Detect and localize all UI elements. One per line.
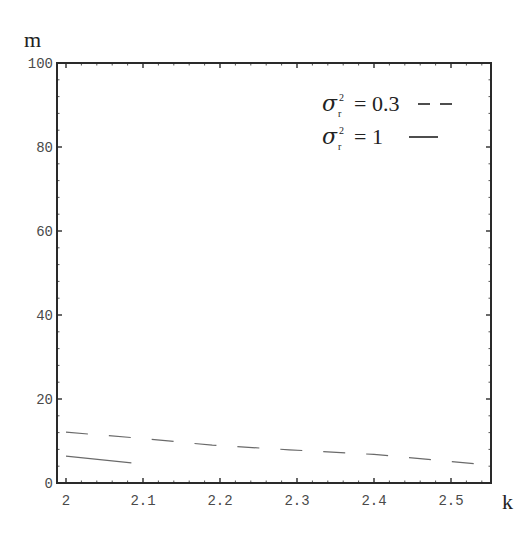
legend-item-solid: σ 2 r = 1 bbox=[322, 124, 438, 152]
legend-subscript: r bbox=[338, 141, 342, 152]
axis-ticks bbox=[57, 63, 491, 483]
y-tick-label: 40 bbox=[36, 308, 53, 324]
x-tick-label: 2 bbox=[62, 493, 70, 509]
series-sigma-0.3-dashed bbox=[66, 432, 474, 464]
legend: σ 2 r = 0.3 σ 2 r = 1 bbox=[322, 91, 452, 152]
plot-frame bbox=[57, 63, 491, 483]
x-tick-label: 2.1 bbox=[130, 493, 155, 509]
legend-value: = 0.3 bbox=[354, 91, 399, 116]
legend-value: = 1 bbox=[354, 124, 383, 149]
x-tick-label: 2.3 bbox=[284, 493, 309, 509]
y-tick-labels: 100 80 60 40 20 0 bbox=[28, 56, 53, 492]
legend-sigma-symbol: σ bbox=[322, 91, 338, 116]
y-tick-label: 0 bbox=[45, 476, 53, 492]
x-tick-label: 2.5 bbox=[438, 493, 463, 509]
x-tick-label: 2.4 bbox=[361, 493, 386, 509]
legend-sigma-symbol: σ bbox=[322, 124, 338, 149]
legend-item-dashed: σ 2 r = 0.3 bbox=[322, 91, 452, 119]
x-tick-label: 2.2 bbox=[207, 493, 232, 509]
y-tick-label: 80 bbox=[36, 140, 53, 156]
legend-superscript: 2 bbox=[339, 92, 344, 103]
y-tick-label: 20 bbox=[36, 392, 53, 408]
legend-subscript: r bbox=[338, 108, 342, 119]
x-axis-label: k bbox=[502, 489, 513, 514]
y-axis-label: m bbox=[24, 27, 41, 52]
line-chart: m 100 80 60 40 20 0 2 2.1 2.2 2.3 2.4 2.… bbox=[0, 0, 531, 537]
legend-superscript: 2 bbox=[339, 125, 344, 136]
x-tick-labels: 2 2.1 2.2 2.3 2.4 2.5 bbox=[62, 493, 464, 509]
series-sigma-1-solid bbox=[66, 456, 131, 463]
y-tick-label: 60 bbox=[36, 224, 53, 240]
y-tick-label: 100 bbox=[28, 56, 53, 72]
